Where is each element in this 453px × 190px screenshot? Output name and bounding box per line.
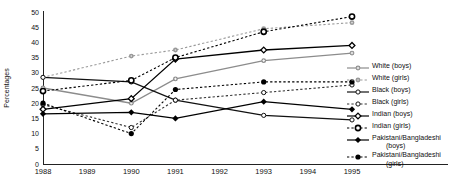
legend-label: Pakistani/Bangladeshi(boys): [372, 134, 441, 150]
legend-item: Black (girls): [347, 98, 441, 109]
data-point: [261, 99, 267, 105]
y-tick-label: 25: [31, 85, 39, 92]
series-line: [43, 82, 352, 134]
chart-legend: White (boys)White (girls)Black (boys)Bla…: [347, 62, 441, 169]
legend-marker-sample: [347, 152, 369, 162]
legend-marker-sample: [347, 99, 369, 109]
data-point: [261, 79, 266, 84]
y-tick-label: 20: [31, 100, 39, 107]
y-tick-label: 10: [31, 130, 39, 137]
y-tick-label: 30: [31, 69, 39, 76]
line-chart-figure: 0510152025303540455019881989199019911992…: [0, 0, 453, 190]
series-line: [43, 85, 352, 128]
x-tick-label: 1992: [211, 167, 228, 176]
data-point: [173, 48, 178, 53]
legend-label: White (boys): [372, 62, 411, 70]
legend-marker-sample: [347, 75, 369, 85]
data-point: [173, 98, 177, 102]
data-point: [40, 101, 45, 106]
data-point: [261, 29, 266, 34]
legend-item: Pakistani/Bangladeshi(boys): [347, 134, 441, 150]
x-tick-label: 1993: [255, 167, 272, 176]
data-point: [41, 75, 45, 79]
legend-marker-sample: [347, 123, 369, 133]
y-tick-label: 40: [31, 39, 39, 46]
series-line: [43, 53, 352, 103]
data-point: [40, 88, 45, 93]
data-point: [262, 113, 266, 117]
y-tick-label: 45: [31, 24, 39, 31]
y-tick-label: 15: [31, 115, 39, 122]
data-point: [129, 131, 134, 136]
legend-label: Indian (boys): [372, 110, 412, 118]
legend-item: Indian (boys): [347, 110, 441, 121]
data-point: [129, 125, 133, 129]
legend-label: White (girls): [372, 74, 409, 82]
legend-item: Indian (girls): [347, 122, 441, 133]
data-point: [128, 109, 134, 115]
legend-label: Pakistani/Bangladeshi(girls): [372, 151, 441, 167]
legend-marker-sample: [347, 111, 369, 121]
legend-marker-sample: [347, 135, 369, 145]
legend-item: Pakistani/Bangladeshi(girls): [347, 151, 441, 167]
y-axis-label: Percentages: [3, 68, 11, 108]
data-point: [129, 78, 134, 83]
legend-marker-sample: [347, 63, 369, 73]
y-tick-label: 35: [31, 54, 39, 61]
legend-label: Black (girls): [372, 98, 409, 106]
series-line: [43, 45, 352, 109]
data-point: [261, 47, 267, 53]
x-tick-label: 1990: [123, 167, 140, 176]
data-point: [350, 51, 355, 56]
x-tick-label: 1994: [300, 167, 317, 176]
legend-label: Black (boys): [372, 86, 411, 94]
x-tick-label: 1988: [35, 167, 52, 176]
data-point: [261, 58, 266, 63]
x-tick-label: 1991: [167, 167, 184, 176]
x-tick-label: 1989: [79, 167, 96, 176]
data-point: [349, 43, 355, 49]
series-line: [43, 23, 352, 78]
y-tick-label: 5: [35, 145, 39, 152]
legend-marker-sample: [347, 87, 369, 97]
data-point: [129, 54, 134, 59]
data-point: [172, 115, 178, 121]
data-point: [262, 90, 266, 94]
data-point: [173, 76, 178, 81]
legend-label: Indian (girls): [372, 122, 411, 130]
data-point: [349, 14, 354, 19]
y-tick-label: 50: [31, 9, 39, 16]
legend-item: White (girls): [347, 74, 441, 85]
data-point: [350, 20, 355, 25]
legend-item: Black (boys): [347, 86, 441, 97]
legend-item: White (boys): [347, 62, 441, 73]
data-point: [173, 55, 178, 60]
data-point: [40, 111, 46, 117]
data-point: [173, 87, 178, 92]
